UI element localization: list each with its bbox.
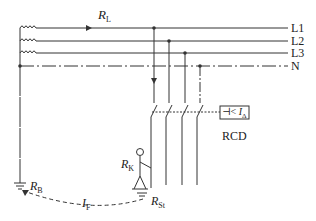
label-n: N bbox=[291, 60, 300, 72]
label-fault-current: IF bbox=[82, 197, 90, 212]
label-body-resistance: RK bbox=[121, 158, 134, 173]
fault-current-arrow bbox=[22, 190, 29, 196]
label-l3: L3 bbox=[291, 47, 304, 59]
label-rcd: RCD bbox=[222, 130, 247, 142]
current-arrow-down bbox=[151, 78, 157, 84]
transformer-coils bbox=[20, 26, 36, 53]
label-rcd-trip: ⊣< IΔ bbox=[222, 107, 247, 120]
person-figure bbox=[132, 149, 151, 190]
current-arrow-right bbox=[86, 25, 92, 31]
label-l1: L1 bbox=[291, 22, 304, 34]
label-operational-earth: RB bbox=[30, 180, 43, 195]
label-line-resistance: RL bbox=[98, 8, 111, 24]
circuit-diagram bbox=[0, 0, 316, 221]
label-standing-resistance: RSt bbox=[151, 195, 165, 210]
